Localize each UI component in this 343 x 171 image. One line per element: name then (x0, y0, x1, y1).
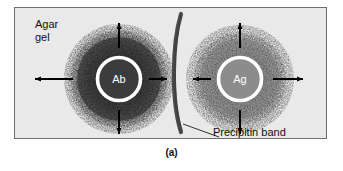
antigen-well-label: Ag (233, 73, 246, 85)
precipitin-band (174, 14, 181, 132)
gel-diagram-svg: Ab Ag (15, 8, 326, 138)
antibody-well[interactable]: Ab (96, 56, 143, 103)
agar-gel-panel: Ab Ag (14, 7, 327, 139)
figure-caption: (a) (0, 147, 343, 158)
antigen-well[interactable]: Ag (217, 56, 264, 103)
figure-container: Ab Ag (0, 0, 343, 171)
gel-interior: Ab Ag (15, 8, 326, 138)
precipitin-band-label: Precipitin band (213, 126, 286, 138)
antibody-well-label: Ab (112, 73, 125, 85)
agar-gel-label: Agar gel (35, 18, 58, 43)
